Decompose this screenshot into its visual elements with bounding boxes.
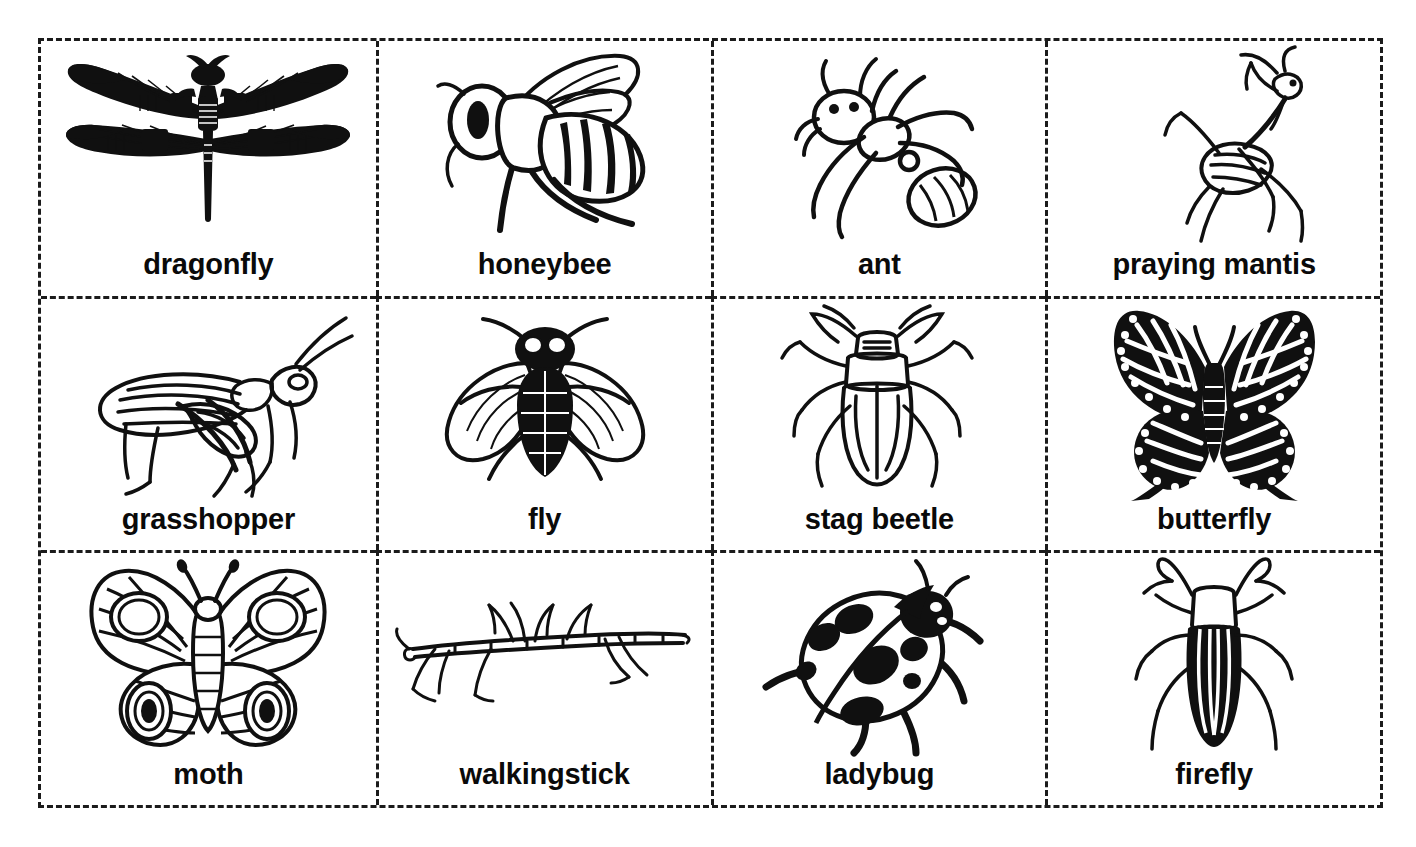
grid-cell-ladybug[interactable]: ladybug <box>711 550 1046 805</box>
insect-picture-word-worksheet: More Insects: Match the Picture to the W… <box>0 0 1416 847</box>
cell-label: dragonfly <box>143 249 273 289</box>
stag-beetle-illustration <box>714 299 1046 504</box>
cell-label: butterfly <box>1157 504 1271 544</box>
moth-illustration <box>41 553 376 758</box>
grid-cell-moth[interactable]: moth <box>41 550 376 805</box>
walkingstick-illustration <box>379 553 711 758</box>
grid-cell-dragonfly[interactable]: dragonfly <box>41 41 376 296</box>
firefly-illustration <box>1048 553 1380 758</box>
grid-cell-butterfly[interactable]: butterfly <box>1045 296 1380 551</box>
grid-cell-walkingstick[interactable]: walkingstick <box>376 550 711 805</box>
honeybee-illustration <box>379 41 711 249</box>
cell-label: ant <box>858 249 901 289</box>
praying-mantis-illustration <box>1048 41 1380 249</box>
fly-illustration <box>379 299 711 504</box>
cell-label: ladybug <box>824 759 934 799</box>
cell-label: praying mantis <box>1112 249 1315 289</box>
grid-cell-firefly[interactable]: firefly <box>1045 550 1380 805</box>
grid-cell-ant[interactable]: ant <box>711 41 1046 296</box>
cell-label: walkingstick <box>460 759 630 799</box>
page-title: More Insects: Match the Picture to the W… <box>0 0 1416 6</box>
insect-grid: dragonfly <box>38 38 1383 808</box>
grid-cell-praying-mantis[interactable]: praying mantis <box>1045 41 1380 296</box>
grid-cell-fly[interactable]: fly <box>376 296 711 551</box>
cell-label: firefly <box>1175 759 1253 799</box>
grid-cell-honeybee[interactable]: honeybee <box>376 41 711 296</box>
ladybug-illustration <box>714 553 1046 758</box>
grid-cell-stag-beetle[interactable]: stag beetle <box>711 296 1046 551</box>
cell-label: honeybee <box>478 249 612 289</box>
cell-label: stag beetle <box>805 504 954 544</box>
grasshopper-illustration <box>41 299 376 504</box>
ant-illustration <box>714 41 1046 249</box>
grid-cell-grasshopper[interactable]: grasshopper <box>41 296 376 551</box>
cell-label: fly <box>528 504 561 544</box>
cell-label: moth <box>173 759 243 799</box>
dragonfly-illustration <box>41 41 376 249</box>
cell-label: grasshopper <box>122 504 295 544</box>
butterfly-illustration <box>1048 299 1380 504</box>
